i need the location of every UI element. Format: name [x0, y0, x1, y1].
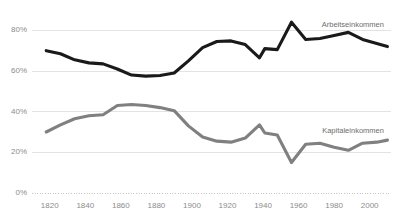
chart-container: 0%20%40%60%80%18201840186018801900192019… — [0, 0, 397, 220]
y-axis-tick-label: 60% — [11, 66, 27, 75]
x-axis-tick-label: 1840 — [76, 201, 94, 210]
x-axis-tick-label: 1900 — [183, 201, 201, 210]
series-label-kapitaleinkommen: Kapitaleinkommen — [322, 126, 384, 135]
x-axis-tick-label: 1820 — [41, 201, 59, 210]
y-axis-tick-label: 20% — [11, 147, 27, 156]
x-axis-tick-label: 1940 — [254, 201, 272, 210]
x-axis-tick-label: 1860 — [112, 201, 130, 210]
y-axis-tick-label: 40% — [11, 107, 27, 116]
x-axis-tick-label: 1880 — [148, 201, 166, 210]
line-chart: 0%20%40%60%80%18201840186018801900192019… — [0, 0, 397, 220]
y-axis-tick-label: 80% — [11, 25, 27, 34]
x-axis-tick-label: 1980 — [325, 201, 343, 210]
x-axis-tick-label: 1920 — [219, 201, 237, 210]
x-axis-tick-label: 1960 — [290, 201, 308, 210]
series-label-arbeitseinkommen: Arbeitseinkommen — [322, 20, 384, 29]
x-axis-tick-label: 2000 — [361, 201, 379, 210]
plot-area: 0%20%40%60%80%18201840186018801900192019… — [0, 0, 397, 220]
y-axis-tick-label: 0% — [15, 188, 27, 197]
